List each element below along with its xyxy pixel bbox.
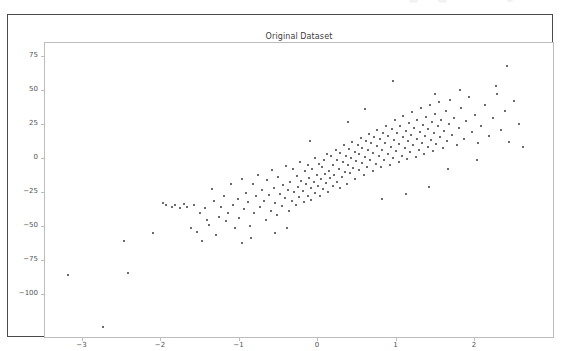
scatter-point: [238, 217, 240, 219]
scatter-point: [385, 125, 387, 127]
scatter-point: [245, 192, 247, 194]
scatter-point: [268, 194, 270, 196]
scatter-point: [303, 201, 305, 203]
scatter-point: [463, 138, 465, 140]
scatter-point: [102, 326, 104, 328]
scatter-point: [370, 142, 372, 144]
scatter-point: [492, 117, 494, 119]
scatter-point: [364, 156, 366, 158]
scatter-point: [405, 193, 407, 195]
x-tick-label: −3: [70, 342, 94, 349]
scatter-point: [504, 110, 506, 112]
scatter-point: [316, 174, 318, 176]
scatter-point: [347, 164, 349, 166]
scatter-point: [415, 156, 417, 158]
scatter-point: [265, 219, 267, 221]
scatter-point: [274, 232, 276, 234]
scatter-point: [439, 136, 441, 138]
scatter-point: [402, 136, 404, 138]
scatter-point: [298, 196, 300, 198]
scatter-point: [465, 120, 467, 122]
x-tick-label: −1: [227, 342, 251, 349]
scatter-point: [342, 161, 344, 163]
scatter-point: [432, 150, 434, 152]
y-tick-label: −100: [12, 290, 38, 297]
scatter-point: [171, 206, 173, 208]
scatter-point: [446, 140, 448, 142]
scatter-point: [179, 207, 181, 209]
scatter-point: [252, 183, 254, 185]
scatter-point: [329, 177, 331, 179]
scatter-point: [317, 185, 319, 187]
scatter-point: [343, 144, 345, 146]
scatter-point: [407, 140, 409, 142]
scatter-point: [412, 144, 414, 146]
scatter-point: [431, 121, 433, 123]
scatter-point: [339, 187, 341, 189]
scatter-point: [477, 142, 479, 144]
scatter-point: [438, 101, 440, 103]
scatter-point: [183, 203, 185, 205]
scatter-point: [324, 173, 326, 175]
scatter-point: [322, 188, 324, 190]
scatter-point: [230, 183, 232, 185]
scatter-point: [419, 131, 421, 133]
scatter-point: [333, 174, 335, 176]
scatter-point: [372, 152, 374, 154]
scatter-point: [365, 140, 367, 142]
scatter-point: [299, 161, 301, 163]
scatter-point: [261, 189, 263, 191]
figure-border: Original Dataset 7550250−25−50−75−100 −3…: [7, 14, 553, 337]
scatter-point: [488, 135, 490, 137]
scatter-point: [271, 169, 273, 171]
scatter-point: [152, 232, 154, 234]
scatter-point: [339, 152, 341, 154]
scatter-point: [296, 175, 298, 177]
scatter-point: [162, 202, 164, 204]
scatter-point: [286, 227, 288, 229]
scatter-point: [279, 193, 281, 195]
scatter-point: [341, 176, 343, 178]
scatter-point: [311, 168, 313, 170]
scatter-point: [338, 168, 340, 170]
scatter-point: [425, 116, 427, 118]
scatter-point: [390, 146, 392, 148]
scatter-point: [321, 166, 323, 168]
scatter-point: [396, 132, 398, 134]
scatter-point: [406, 158, 408, 160]
scatter-point: [327, 191, 329, 193]
scatter-point: [257, 174, 259, 176]
scatter-point: [313, 181, 315, 183]
scatter-point: [304, 170, 306, 172]
scatter-point: [429, 104, 431, 106]
scatter-point: [67, 274, 69, 276]
scatter-point: [433, 132, 435, 134]
scatter-point: [428, 186, 430, 188]
scatter-point: [418, 149, 420, 151]
scatter-point: [255, 195, 257, 197]
scatter-point: [220, 206, 222, 208]
scatter-point: [445, 110, 447, 112]
scatter-point: [402, 115, 404, 117]
toolbar-artifact-2: [438, 0, 447, 3]
scatter-point: [289, 181, 291, 183]
scatter-point: [348, 148, 350, 150]
scatter-point: [376, 145, 378, 147]
scatter-point: [243, 208, 245, 210]
x-tick-label: 0: [305, 342, 329, 349]
scatter-point: [300, 180, 302, 182]
scatter-point: [263, 200, 265, 202]
scatter-point: [208, 224, 210, 226]
scatter-point: [336, 159, 338, 161]
scatter-point: [277, 176, 279, 178]
scatter-point: [476, 159, 478, 161]
scatter-point: [398, 143, 400, 145]
scatter-point: [307, 195, 309, 197]
scatter-point: [399, 125, 401, 127]
toolbar-artifact-3: [507, 0, 513, 2]
scatter-point: [420, 107, 422, 109]
scatter-point: [508, 141, 510, 143]
scatter-point: [376, 129, 378, 131]
scatter-point: [437, 125, 439, 127]
